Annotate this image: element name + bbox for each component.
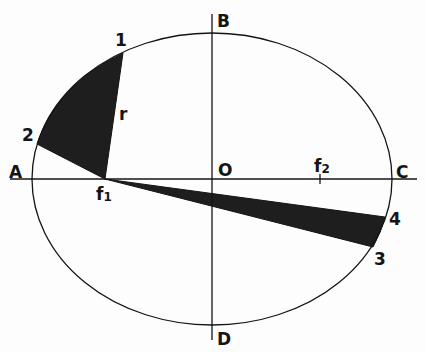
label-O: O: [218, 160, 232, 180]
label-f2: f2: [314, 156, 330, 176]
label-B: B: [217, 11, 230, 31]
shaded-sector-3-4: [105, 179, 385, 247]
label-C: C: [396, 162, 408, 182]
label-point-3: 3: [374, 249, 386, 269]
label-f1: f1: [96, 184, 112, 204]
label-D: D: [217, 329, 231, 349]
label-point-4: 4: [389, 209, 401, 229]
label-point-1: 1: [115, 30, 127, 50]
kepler-ellipse-diagram: A B C D O f1 f2 1 2 3 4 r: [0, 0, 426, 352]
diagram-canvas: A B C D O f1 f2 1 2 3 4 r: [0, 0, 426, 352]
label-radius-r: r: [119, 104, 128, 124]
label-A: A: [9, 162, 23, 182]
label-point-2: 2: [22, 125, 34, 145]
